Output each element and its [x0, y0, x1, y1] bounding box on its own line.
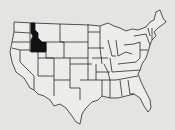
- us-map: [0, 0, 175, 130]
